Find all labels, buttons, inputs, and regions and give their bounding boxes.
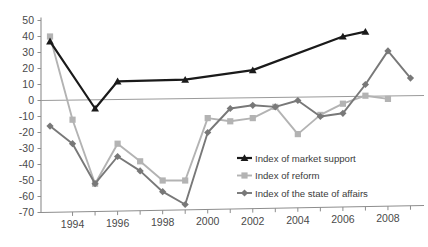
y-axis-tick-label: -70 — [19, 206, 34, 218]
x-axis-spine — [41, 206, 424, 213]
legend-label: Index of the state of affairs — [255, 188, 368, 199]
y-axis-tick-label: -10 — [19, 110, 34, 122]
y-axis-tick-label: 30 — [22, 46, 34, 58]
y-axis-tick-label: -50 — [19, 174, 34, 186]
y-axis-tick-label: -20 — [19, 126, 34, 138]
data-point-marker — [295, 131, 301, 137]
y-axis: 50403020100-10-20-30-40-50-60-70 — [19, 14, 41, 218]
data-point-marker — [250, 115, 256, 121]
data-point-marker — [362, 93, 368, 99]
data-point-marker — [205, 115, 211, 121]
series-index-of-market-support — [46, 28, 369, 112]
y-axis-tick-label: -60 — [19, 190, 34, 202]
y-axis-tick-label: -40 — [19, 158, 34, 170]
data-point-marker — [340, 101, 346, 107]
legend-item[interactable]: Index of market support — [237, 153, 356, 164]
y-axis-tick-label: 0 — [28, 94, 34, 106]
series-layer — [46, 28, 414, 208]
series-index-of-the-state-of-affairs — [46, 47, 414, 208]
x-axis-tick-label: 2002 — [241, 215, 265, 227]
x-axis: 19941996199820002002200420062008 — [41, 206, 424, 230]
legend-item[interactable]: Index of reform — [237, 170, 320, 181]
x-axis-tick-label: 1994 — [61, 218, 85, 230]
x-axis-tick-label: 2004 — [286, 214, 310, 226]
data-point-marker — [137, 158, 143, 164]
data-point-marker — [385, 96, 391, 102]
x-axis-tick-label: 2008 — [376, 212, 400, 224]
data-point-marker — [69, 117, 75, 123]
data-point-marker — [182, 177, 188, 183]
x-axis-tick-label: 1996 — [106, 217, 130, 229]
y-axis-tick-label: 20 — [22, 62, 34, 74]
data-point-marker — [227, 118, 233, 124]
y-axis-tick-label: -30 — [19, 142, 34, 154]
data-point-marker — [160, 177, 166, 183]
y-axis-tick-label: 40 — [22, 30, 34, 42]
legend-item[interactable]: Index of the state of affairs — [237, 188, 368, 199]
x-axis-tick-label: 1998 — [151, 216, 175, 228]
x-axis-tick-label: 2006 — [331, 213, 355, 225]
chart-container: 50403020100-10-20-30-40-50-60-70 1994199… — [0, 0, 428, 247]
legend-label: Index of market support — [255, 153, 356, 164]
x-axis-tick-label: 2000 — [196, 215, 220, 227]
line-chart: 50403020100-10-20-30-40-50-60-70 1994199… — [0, 0, 428, 247]
data-point-marker — [249, 102, 256, 109]
data-point-marker — [241, 189, 248, 196]
data-point-marker — [115, 141, 121, 147]
chart-legend: Index of market supportIndex of reformIn… — [237, 153, 368, 199]
series-index-of-reform — [47, 33, 391, 186]
y-axis-tick-label: 10 — [22, 78, 34, 90]
y-axis-tick-label: 50 — [22, 14, 34, 26]
legend-label: Index of reform — [255, 170, 320, 181]
data-point-marker — [241, 172, 247, 178]
